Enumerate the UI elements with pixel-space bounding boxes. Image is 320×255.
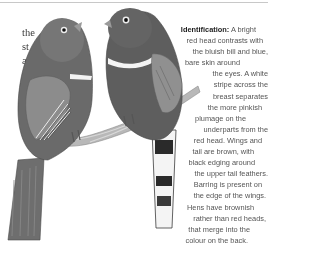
id-line: red head contrasts with	[170, 35, 263, 46]
id-line: the bluish bill and blue,	[170, 46, 268, 57]
id-line: stripe across the	[170, 79, 268, 90]
id-line: colour on the back.	[170, 235, 248, 246]
id-line: tail are brown, with	[170, 146, 254, 157]
id-line: rather than red heads,	[170, 213, 266, 224]
id-line: underparts from the	[170, 124, 268, 135]
id-line: the more pinkish	[170, 102, 262, 113]
id-line: Identification: A bright	[170, 24, 256, 35]
id-line: Barring is present on	[170, 179, 262, 190]
right-bird-eye	[124, 18, 128, 22]
id-line: the upper tail feathers.	[170, 168, 268, 179]
id-line: red head. Wings and	[170, 135, 262, 146]
id-line: the eyes. A white	[170, 68, 268, 79]
identification-paragraph: Identification: A bright red head contra…	[170, 24, 268, 246]
right-bird-head	[108, 8, 152, 48]
id-line: black edging around	[170, 157, 255, 168]
id-heading: Identification:	[181, 25, 229, 34]
id-line: the edge of the wings.	[170, 190, 266, 201]
id-line: that merge into the	[170, 224, 250, 235]
left-bird-eye	[62, 28, 66, 32]
id-line: bare skin around	[170, 57, 240, 68]
id-line: breast separates	[170, 91, 268, 102]
id-line: Hens have brownish	[170, 202, 254, 213]
id-line: plumage on the	[170, 113, 246, 124]
